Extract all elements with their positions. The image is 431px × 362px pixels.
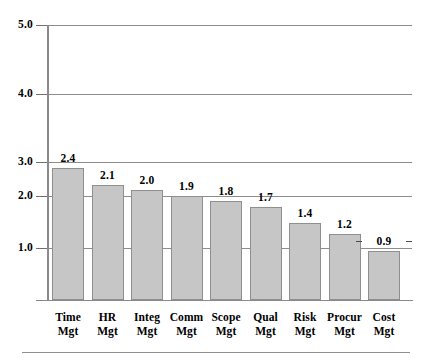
value-dash-left: [356, 241, 362, 242]
bar-hr-mgt: [92, 185, 124, 301]
bar-value-label: 0.9: [358, 236, 410, 248]
bar-chart: 5.0 4.0 3.0 2.0 1.0 2.4TimeMgt2.1HRMgt2.…: [0, 0, 431, 362]
bar-comm-mgt: [171, 196, 203, 301]
value-dash-right: [406, 241, 412, 242]
bar-procur-mgt: [329, 234, 361, 300]
bottom-rule: [22, 352, 410, 353]
category-label-line: Mgt: [356, 324, 412, 338]
bar-qual-mgt: [250, 207, 282, 301]
bar-time-mgt: [52, 168, 84, 300]
category-label: CostMgt: [356, 310, 412, 338]
bar-value-label: 2.4: [42, 153, 94, 165]
bar-risk-mgt: [289, 223, 321, 300]
category-label-line: Cost: [356, 310, 412, 324]
bars-layer: 2.4TimeMgt2.1HRMgt2.0IntegMgt1.9CommMgt1…: [0, 0, 431, 362]
bar-integ-mgt: [131, 190, 163, 300]
bar-value-label: 1.4: [279, 208, 331, 220]
bar-value-label: 1.7: [240, 192, 292, 204]
bar-scope-mgt: [210, 201, 242, 300]
bar-value-label: 1.2: [319, 219, 371, 231]
bar-cost-mgt: [368, 251, 400, 301]
